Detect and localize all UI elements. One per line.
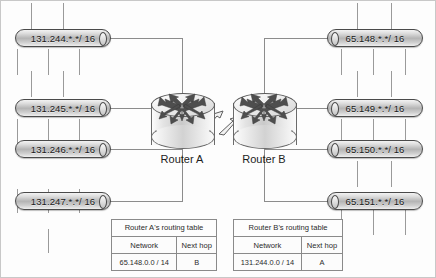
network-segment-65-148[interactable]: 65.148.*.*/ 16 <box>327 29 423 47</box>
router-b[interactable]: Router B <box>233 93 295 155</box>
host-stub-line <box>373 49 374 75</box>
link-wire <box>264 201 328 202</box>
segment-endcap-icon <box>331 195 339 209</box>
network-diagram-canvas: 131.244.*.*/ 16 131.245.*.*/ 16 131.246.… <box>0 0 436 278</box>
segment-endcap-icon <box>331 32 339 46</box>
link-wire <box>109 201 183 202</box>
network-segment-65-151[interactable]: 65.151.*.*/ 16 <box>327 192 423 210</box>
network-segment-131-246[interactable]: 131.246.*.*/ 16 <box>15 140 111 158</box>
table-row: 65.148.0.0 / 14 B <box>112 253 216 270</box>
network-label: 65.150.*.*/ 16 <box>346 144 405 155</box>
segment-endcap-icon <box>331 102 339 116</box>
host-stub-line <box>391 3 392 29</box>
segment-endcap-icon <box>99 195 107 209</box>
router-b-label: Router B <box>211 153 317 165</box>
network-label: 131.245.*.*/ 16 <box>31 103 95 114</box>
network-label: 131.246.*.*/ 16 <box>31 144 95 155</box>
segment-endcap-icon <box>99 32 107 46</box>
host-stub-line <box>391 161 392 187</box>
host-stub-line <box>48 49 49 75</box>
table-header-row: Network Next hop <box>112 237 216 253</box>
host-stub-line <box>357 71 358 97</box>
table-caption: Router B's routing table <box>234 220 342 237</box>
network-label: 65.148.*.*/ 16 <box>346 33 405 44</box>
network-segment-131-245[interactable]: 131.245.*.*/ 16 <box>15 99 111 117</box>
network-segment-131-247[interactable]: 131.247.*.*/ 16 <box>15 192 111 210</box>
host-stub-line <box>31 71 32 97</box>
cell-network: 131.244.0.0 / 14 <box>234 254 302 270</box>
host-stub-line <box>79 49 80 75</box>
column-header-next-hop: Next hop <box>177 237 216 253</box>
cell-next-hop: A <box>302 254 342 270</box>
router-arrows-icon <box>233 93 295 155</box>
segment-endcap-icon <box>99 102 107 116</box>
host-stub-line <box>17 49 18 75</box>
cell-next-hop: B <box>177 254 216 270</box>
router-a[interactable]: Router A <box>151 93 213 155</box>
host-stub-line <box>373 209 374 235</box>
host-stub-line <box>63 3 64 29</box>
network-segment-65-150[interactable]: 65.150.*.*/ 16 <box>327 140 423 158</box>
table-caption: Router A's routing table <box>112 220 216 237</box>
host-stub-line <box>31 3 32 29</box>
table-row: 131.244.0.0 / 14 A <box>234 253 342 270</box>
router-a-routing-table: Router A's routing table Network Next ho… <box>111 219 217 271</box>
column-header-network: Network <box>234 237 302 253</box>
link-wire <box>109 38 183 39</box>
host-stub-line <box>405 209 406 235</box>
host-stub-line <box>405 49 406 75</box>
host-stub-line <box>341 49 342 75</box>
segment-endcap-icon <box>99 143 107 157</box>
segment-endcap-icon <box>331 143 339 157</box>
router-b-routing-table: Router B's routing table Network Next ho… <box>233 219 343 271</box>
host-stub-line <box>48 229 49 253</box>
table-header-row: Network Next hop <box>234 237 342 253</box>
host-stub-line <box>391 71 392 97</box>
network-label: 65.149.*.*/ 16 <box>346 103 405 114</box>
column-header-next-hop: Next hop <box>302 237 342 253</box>
network-label: 131.244.*.*/ 16 <box>31 33 95 44</box>
host-stub-line <box>63 71 64 97</box>
network-label: 131.247.*.*/ 16 <box>31 196 95 207</box>
router-arrows-icon <box>151 93 213 155</box>
link-wire <box>264 38 328 39</box>
column-header-network: Network <box>112 237 177 253</box>
network-label: 65.151.*.*/ 16 <box>346 196 405 207</box>
cell-network: 65.148.0.0 / 14 <box>112 254 177 270</box>
host-stub-line <box>357 3 358 29</box>
network-segment-131-244[interactable]: 131.244.*.*/ 16 <box>15 29 111 47</box>
network-segment-65-149[interactable]: 65.149.*.*/ 16 <box>327 99 423 117</box>
host-stub-line <box>357 161 358 187</box>
